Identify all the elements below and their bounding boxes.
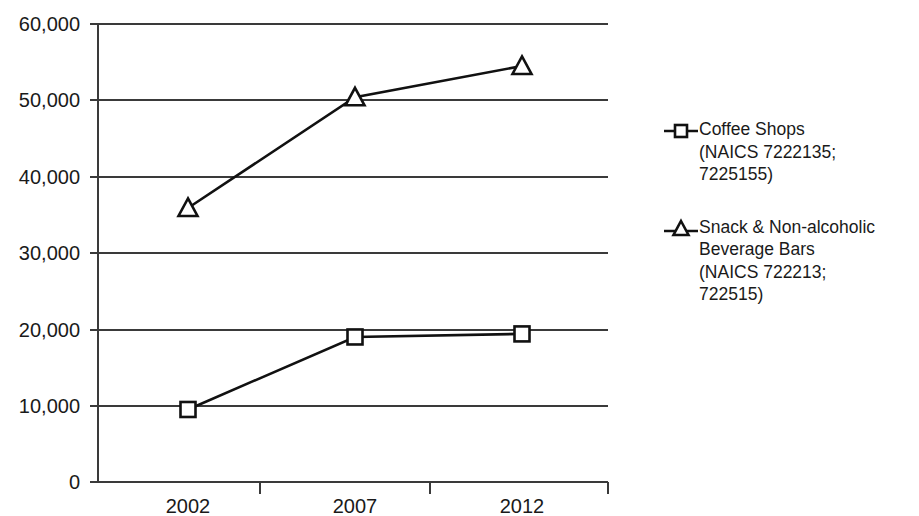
plot-area: 60,000 50,000 40,000 30,000 20,000 10,00… [0, 0, 660, 516]
y-axis-tick-labels: 60,000 50,000 40,000 30,000 20,000 10,00… [19, 13, 80, 493]
series-snack-beverage-bars [179, 56, 532, 215]
plot-svg: 60,000 50,000 40,000 30,000 20,000 10,00… [0, 0, 660, 516]
legend-entry-coffee-shops[interactable]: Coffee Shops (NAICS 7222135; 7225155) [664, 118, 916, 186]
legend: Coffee Shops (NAICS 7222135; 7225155) Sn… [664, 118, 916, 336]
y-tick-label-60000: 60,000 [19, 13, 80, 35]
line-chart: 60,000 50,000 40,000 30,000 20,000 10,00… [0, 0, 919, 516]
y-tick-label-10000: 10,000 [19, 395, 80, 417]
data-point-marker [348, 329, 363, 344]
y-tick-label-0: 0 [69, 471, 80, 493]
y-tick-label-50000: 50,000 [19, 89, 80, 111]
data-point-marker [513, 56, 532, 73]
square-marker-icon [664, 119, 698, 143]
x-axis [98, 482, 608, 494]
legend-label-coffee-shops: Coffee Shops (NAICS 7222135; 7225155) [699, 118, 836, 186]
triangle-marker-icon [664, 217, 698, 241]
data-point-marker [181, 402, 196, 417]
series-coffee-shops [181, 326, 530, 417]
legend-entry-snack-beverage-bars[interactable]: Snack & Non-alcoholic Beverage Bars (NAI… [664, 216, 916, 306]
y-tick-label-30000: 30,000 [19, 242, 80, 264]
legend-label-snack-beverage-bars: Snack & Non-alcoholic Beverage Bars (NAI… [699, 216, 875, 306]
y-tick-label-20000: 20,000 [19, 319, 80, 341]
y-axis [90, 24, 98, 482]
x-tick-label-2002: 2002 [166, 495, 211, 516]
x-tick-label-2012: 2012 [500, 495, 545, 516]
y-tick-label-40000: 40,000 [19, 166, 80, 188]
data-point-marker [179, 198, 198, 216]
data-point-marker [515, 326, 530, 341]
x-axis-tick-labels: 2002 2007 2012 [166, 495, 545, 516]
x-tick-label-2007: 2007 [333, 495, 378, 516]
data-series-layer [179, 56, 532, 417]
gridlines [98, 24, 608, 406]
